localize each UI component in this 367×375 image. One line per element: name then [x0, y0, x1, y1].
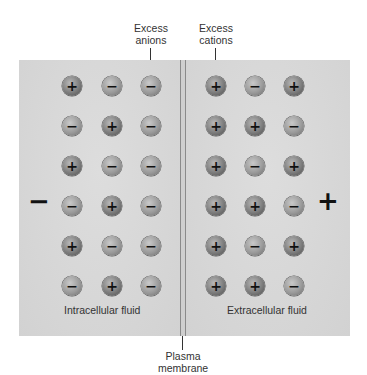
anion-icon: − [62, 276, 82, 296]
cation-icon: + [206, 156, 226, 176]
intracellular-fluid-label: Intracellular fluid [64, 304, 140, 316]
plus-symbol: + [106, 196, 118, 216]
plus-symbol: + [249, 276, 261, 296]
minus-symbol: − [145, 116, 157, 136]
plus-symbol: + [210, 196, 222, 216]
cation-icon: + [245, 116, 265, 136]
excess-anions-label: Excess anions [128, 22, 174, 46]
anion-icon: − [245, 236, 265, 256]
minus-symbol: − [145, 76, 157, 96]
cation-icon: + [62, 76, 82, 96]
plus-symbol: + [288, 156, 300, 176]
anion-icon: − [245, 76, 265, 96]
positive-side-charge: + [317, 188, 339, 214]
excess-cations-line2: cations [193, 34, 239, 46]
minus-symbol: − [106, 76, 118, 96]
cation-icon: + [102, 196, 122, 216]
minus-symbol: − [66, 276, 78, 296]
negative-side-charge: − [28, 188, 50, 214]
cation-icon: + [206, 196, 226, 216]
cation-icon: + [206, 116, 226, 136]
cation-icon: + [284, 156, 304, 176]
plus-symbol: + [210, 156, 222, 176]
minus-symbol: − [66, 196, 78, 216]
anion-icon: − [284, 276, 304, 296]
minus-symbol: − [145, 196, 157, 216]
anion-icon: − [102, 76, 122, 96]
plus-symbol: + [66, 236, 78, 256]
anion-icon: − [141, 76, 161, 96]
plus-symbol: + [288, 76, 300, 96]
plasma-membrane-line2: membrane [158, 362, 208, 374]
minus-symbol: − [145, 236, 157, 256]
minus-symbol: − [249, 76, 261, 96]
plus-symbol: + [106, 116, 118, 136]
plus-symbol: + [210, 116, 222, 136]
minus-symbol: − [106, 236, 118, 256]
plus-symbol: + [210, 276, 222, 296]
plus-symbol: + [66, 156, 78, 176]
cation-icon: + [245, 276, 265, 296]
plus-symbol: + [288, 236, 300, 256]
plasma-membrane-label: Plasma membrane [158, 350, 208, 374]
plus-symbol: + [210, 236, 222, 256]
anion-icon: − [141, 196, 161, 216]
cation-icon: + [245, 196, 265, 216]
minus-symbol: − [145, 276, 157, 296]
anion-icon: − [284, 196, 304, 216]
cation-icon: + [284, 236, 304, 256]
anion-icon: − [141, 116, 161, 136]
plasma-membrane-pointer [182, 336, 183, 350]
excess-cations-line1: Excess [193, 22, 239, 34]
plus-symbol: + [66, 76, 78, 96]
cation-icon: + [206, 236, 226, 256]
anion-icon: − [62, 196, 82, 216]
minus-symbol: − [249, 236, 261, 256]
cation-icon: + [284, 76, 304, 96]
plus-symbol: + [210, 76, 222, 96]
cation-icon: + [102, 116, 122, 136]
anion-icon: − [102, 236, 122, 256]
plus-symbol: + [249, 116, 261, 136]
cation-icon: + [62, 156, 82, 176]
cation-icon: + [206, 276, 226, 296]
excess-anions-line1: Excess [128, 22, 174, 34]
anion-icon: − [102, 156, 122, 176]
minus-symbol: − [145, 156, 157, 176]
anion-icon: − [141, 236, 161, 256]
anion-icon: − [245, 156, 265, 176]
minus-symbol: − [66, 116, 78, 136]
anion-icon: − [284, 116, 304, 136]
cation-icon: + [62, 236, 82, 256]
anion-icon: − [141, 156, 161, 176]
plus-symbol: + [249, 196, 261, 216]
minus-symbol: − [288, 116, 300, 136]
minus-symbol: − [288, 276, 300, 296]
plasma-membrane [180, 60, 186, 336]
minus-symbol: − [249, 156, 261, 176]
minus-symbol: − [106, 156, 118, 176]
minus-symbol: − [288, 196, 300, 216]
plasma-membrane-line1: Plasma [158, 350, 208, 362]
anion-icon: − [141, 276, 161, 296]
plus-symbol: + [106, 276, 118, 296]
anion-icon: − [62, 116, 82, 136]
cation-icon: + [102, 276, 122, 296]
excess-cations-label: Excess cations [193, 22, 239, 46]
excess-anions-line2: anions [128, 34, 174, 46]
cation-icon: + [206, 76, 226, 96]
extracellular-fluid-label: Extracellular fluid [227, 304, 307, 316]
